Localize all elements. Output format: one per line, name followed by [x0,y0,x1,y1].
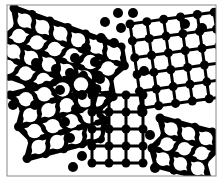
lattice-atom [152,84,161,93]
lattice-atom [88,125,97,134]
lattice-atom [88,159,97,168]
boundary-atom [145,130,155,140]
lattice-atom [147,144,156,153]
boundary-atom [31,58,41,68]
lattice-void [50,135,64,149]
boundary-atom [60,117,70,127]
lattice-void [74,77,88,91]
lattice-void [27,124,41,138]
lattice-void [23,108,37,122]
lattice-void [191,162,205,176]
boundary-atom [70,53,80,63]
lattice-void [30,35,44,49]
boundary-atom [197,23,207,33]
lattice-atom [193,10,202,19]
boundary-atom [71,104,81,114]
lattice-atom [181,46,190,55]
lattice-atom [149,68,158,77]
lattice-atom [178,29,187,38]
boundary-atom [128,8,138,18]
grain-diagram [0,0,224,189]
lattice-atom [122,91,131,100]
lattice-void [199,132,213,146]
lattice-atom [159,15,168,24]
boundary-atom [100,17,110,27]
lattice-atom [88,91,97,100]
lattice-atom [105,159,114,168]
boundary-atom [116,23,126,33]
boundary-atom [137,107,147,117]
lattice-void [53,26,67,40]
lattice-atom [164,48,173,57]
lattice-void [182,127,196,141]
boundary-atom [113,8,123,18]
lattice-void [178,142,192,156]
boundary-atom [68,162,78,172]
lattice-void [160,137,174,151]
lattice-void [164,122,178,136]
lattice-atom [145,34,154,43]
lattice-atom [105,108,114,117]
boundary-atom [55,85,65,95]
boundary-atom [139,66,149,76]
lattice-atom [122,159,131,168]
lattice-void [35,20,49,34]
lattice-atom [156,114,165,123]
boundary-atom [65,68,75,78]
lattice-void [47,42,61,56]
lattice-void [31,140,45,154]
boundary-atom [96,33,106,43]
lattice-atom [142,17,151,26]
lattice-atom [166,65,175,74]
lattice-atom [126,20,135,29]
boundary-atom [51,64,61,74]
boundary-atom [77,90,87,100]
lattice-void [195,147,209,161]
lattice-void [174,157,188,171]
boundary-atom [95,74,105,84]
lattice-atom [105,125,114,134]
boundary-atom [109,38,119,48]
lattice-atom [147,51,156,60]
lattice-atom [128,36,137,45]
lattice-atom [162,32,171,41]
lattice-atom [139,91,148,100]
boundary-atom [180,19,190,29]
lattice-atom [139,159,148,168]
lattice-atom [130,53,139,62]
lattice-atom [139,142,148,151]
lattice-atom [88,108,97,117]
lattice-atom [154,101,163,110]
lattice-atom [200,61,209,70]
lattice-atom [171,99,180,108]
lattice-atom [105,142,114,151]
boundary-atom [77,151,87,161]
lattice-atom [205,94,214,103]
lattice-atom [185,80,194,89]
lattice-void [41,103,55,117]
lattice-atom [169,82,178,91]
boundary-atom [150,163,160,173]
lattice-void [18,66,32,80]
lattice-atom [198,44,207,53]
lattice-atom [183,63,192,72]
boundary-atom [65,133,75,143]
lattice-void [107,46,121,60]
lattice-void [12,29,26,43]
lattice-atom [122,108,131,117]
lattice-void [46,119,60,133]
lattice-atom [14,122,23,131]
lattice-void [37,87,51,101]
lattice-atom [122,125,131,134]
lattice-atom [120,61,129,70]
microstructure-figure [0,0,224,189]
boundary-atom [30,100,40,110]
lattice-atom [23,154,32,163]
lattice-void [17,13,31,27]
boundary-atom [81,43,91,53]
lattice-atom [105,91,114,100]
lattice-void [6,44,20,58]
lattice-atom [188,97,197,106]
lattice-void [156,152,170,166]
lattice-atom [88,142,97,151]
